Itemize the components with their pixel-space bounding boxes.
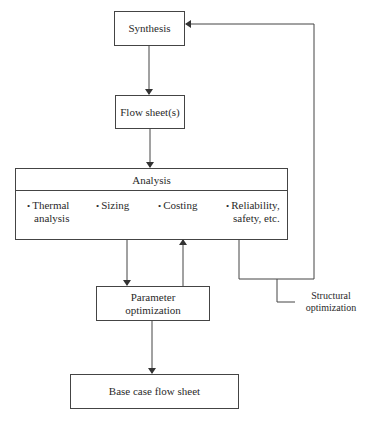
analysis-title: Analysis [132, 174, 171, 186]
bullet-icon: • [96, 201, 99, 211]
flow-sheets-label: Flow sheet(s) [120, 106, 180, 119]
parameter-optimization-node: Parameter optimization [96, 286, 210, 321]
item-text: analysis [27, 212, 69, 224]
base-case-node: Base case flow sheet [70, 374, 239, 409]
bullet-icon: • [226, 201, 229, 211]
analysis-header: Analysis [16, 169, 287, 191]
analysis-item-thermal: •Thermal analysis [27, 199, 69, 224]
label-line1: Structural [311, 290, 350, 301]
analysis-node: Analysis •Thermal analysis •Sizing •Cost… [15, 168, 288, 240]
analysis-items: •Thermal analysis •Sizing •Costing •Reli… [16, 191, 287, 239]
item-text: Reliability, [231, 199, 279, 211]
structural-label-leader [277, 279, 295, 302]
base-case-label: Base case flow sheet [109, 385, 200, 398]
item-text: Sizing [101, 199, 129, 211]
analysis-item-reliability: •Reliability, safety, etc. [226, 199, 280, 224]
bullet-icon: • [158, 201, 161, 211]
param-opt-line1: Parameter [131, 291, 176, 304]
label-line2: optimization [306, 302, 357, 313]
structural-optimization-label: Structural optimization [296, 290, 366, 314]
item-text: safety, etc. [233, 212, 280, 224]
analysis-item-costing: •Costing [158, 199, 197, 212]
arrow-structural-loop [186, 24, 314, 279]
item-text: Thermal [32, 199, 69, 211]
synthesis-node: Synthesis [114, 11, 185, 46]
bullet-icon: • [27, 201, 30, 211]
item-text: Costing [163, 199, 197, 211]
analysis-item-sizing: •Sizing [96, 199, 129, 212]
param-opt-line2: optimization [125, 304, 181, 317]
flow-sheets-node: Flow sheet(s) [115, 95, 185, 129]
synthesis-label: Synthesis [128, 22, 170, 35]
